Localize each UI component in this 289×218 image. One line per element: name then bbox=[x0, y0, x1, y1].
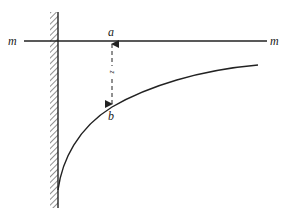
diagram-canvas: m m z a b bbox=[0, 0, 289, 218]
asymptotic-curve bbox=[58, 65, 258, 190]
label-m-right: m bbox=[270, 34, 279, 48]
label-point-a: a bbox=[108, 25, 114, 39]
label-m-left: m bbox=[8, 34, 17, 48]
reference-line-m: m m bbox=[8, 34, 279, 48]
distance-arrow: z bbox=[108, 44, 117, 104]
label-point-b: b bbox=[108, 109, 114, 123]
